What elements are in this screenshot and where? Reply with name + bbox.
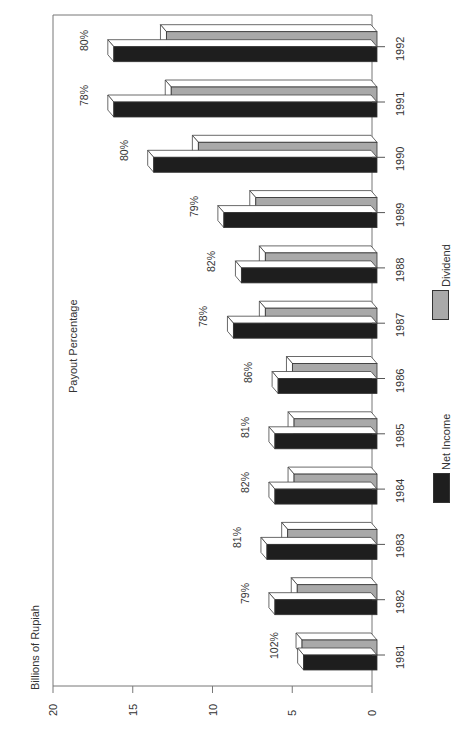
dividend-bar-top-face bbox=[160, 25, 377, 32]
value-tick-label: 0 bbox=[366, 710, 378, 716]
payout-percentage-label: 79% bbox=[188, 196, 200, 217]
dividend-bar-top-face bbox=[259, 246, 377, 253]
payout-percentage-label: 82% bbox=[239, 472, 251, 493]
dividend-bar-top-face bbox=[192, 135, 377, 142]
net-income-bar-top-face bbox=[227, 316, 377, 323]
net-income-bar-front-face bbox=[275, 489, 377, 504]
category-label: 1991 bbox=[394, 92, 406, 116]
dividend-bar-top-face bbox=[286, 357, 377, 364]
dividend-bar-top-face bbox=[288, 467, 377, 474]
net-income-bar-top-face bbox=[269, 482, 377, 489]
value-tick-label: 10 bbox=[207, 704, 219, 716]
payout-percentage-label: 80% bbox=[118, 140, 130, 161]
payout-percentage-label: 79% bbox=[239, 583, 251, 604]
legend-label-dividend: Dividend bbox=[440, 244, 452, 287]
net-income-bar-top-face bbox=[108, 40, 377, 47]
payout-percentage-title: Payout Percentage bbox=[67, 299, 79, 393]
value-tick-label: 20 bbox=[47, 704, 59, 716]
net-income-bar-top-face bbox=[148, 150, 377, 157]
category-label: 1990 bbox=[394, 147, 406, 171]
dividend-bar-top-face bbox=[291, 578, 377, 585]
value-tick-label: 5 bbox=[286, 710, 298, 716]
payout-percentage-label: 81% bbox=[239, 417, 251, 438]
net-income-bar-front-face bbox=[224, 213, 377, 228]
net-income-bar-front-face bbox=[233, 323, 377, 338]
category-label: 1985 bbox=[394, 423, 406, 447]
net-income-bar-front-face bbox=[267, 544, 377, 559]
payout-percentage-label: 78% bbox=[78, 85, 90, 106]
category-label: 1988 bbox=[394, 257, 406, 281]
value-tick-label: 15 bbox=[127, 704, 139, 716]
net-income-bar-top-face bbox=[269, 593, 377, 600]
payout-percentage-label: 78% bbox=[197, 306, 209, 327]
net-income-bar-front-face bbox=[114, 47, 377, 62]
net-income-bar-front-face bbox=[114, 102, 377, 117]
category-label: 1983 bbox=[394, 534, 406, 558]
net-income-bar-front-face bbox=[241, 268, 377, 283]
y-axis-title: Billions of Rupiah bbox=[29, 605, 41, 690]
category-label: 1992 bbox=[394, 36, 406, 60]
category-label: 1981 bbox=[394, 645, 406, 669]
net-income-bar-top-face bbox=[218, 206, 377, 213]
dividend-bar-top-face bbox=[296, 633, 377, 640]
payout-percentage-label: 82% bbox=[205, 251, 217, 272]
payout-percentage-label: 102% bbox=[268, 632, 280, 659]
dividend-bar-top-face bbox=[288, 412, 377, 419]
net-income-bar-top-face bbox=[108, 95, 377, 102]
category-label: 1989 bbox=[394, 202, 406, 226]
category-label: 1982 bbox=[394, 589, 406, 613]
net-income-bar-top-face bbox=[235, 261, 377, 268]
net-income-bar-top-face bbox=[298, 648, 377, 655]
net-income-bar-front-face bbox=[304, 655, 377, 670]
net-income-bar-top-face bbox=[269, 427, 377, 434]
net-income-bar-front-face bbox=[275, 434, 377, 449]
category-label: 1987 bbox=[394, 313, 406, 337]
dividend-bar-top-face bbox=[250, 191, 377, 198]
category-label: 1986 bbox=[394, 368, 406, 392]
payout-percentage-label: 86% bbox=[242, 361, 254, 382]
net-income-bar-front-face bbox=[278, 379, 377, 394]
legend-swatch-net-income bbox=[433, 473, 450, 503]
dividend-bar-top-face bbox=[259, 301, 377, 308]
net-income-bar-top-face bbox=[261, 537, 377, 544]
net-income-bar-front-face bbox=[275, 600, 377, 615]
net-income-bar-front-face bbox=[154, 157, 377, 172]
legend-swatch-dividend bbox=[432, 290, 449, 320]
dividend-bar-top-face bbox=[165, 80, 377, 87]
category-label: 1984 bbox=[394, 479, 406, 503]
dividend-bar-top-face bbox=[282, 522, 377, 529]
payout-percentage-label: 81% bbox=[231, 527, 243, 548]
payout-percentage-label: 80% bbox=[78, 30, 90, 51]
legend-label-net-income: Net Income bbox=[440, 414, 452, 470]
net-income-bar-top-face bbox=[272, 372, 377, 379]
